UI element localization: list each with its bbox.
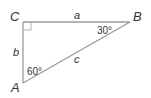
vertex-b-label: B — [133, 9, 142, 24]
angle-b-label: 30° — [97, 25, 112, 36]
side-a-label: a — [74, 9, 80, 21]
right-angle-marker — [23, 22, 31, 30]
triangle-diagram: C B A a b c 30° 60° — [0, 0, 151, 98]
side-c-label: c — [74, 53, 80, 65]
angle-a-label: 60° — [27, 66, 42, 77]
vertex-a-label: A — [10, 80, 20, 95]
side-b-label: b — [13, 46, 19, 58]
vertex-c-label: C — [10, 9, 20, 24]
